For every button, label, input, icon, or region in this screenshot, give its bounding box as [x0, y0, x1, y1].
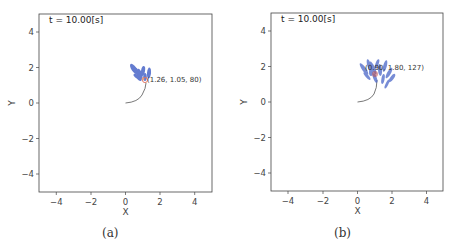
y-tick-label: −4	[253, 168, 266, 178]
x-tick-label: 4	[192, 197, 197, 207]
pose-annotation: (1.26, 1.05, 80)	[147, 76, 202, 84]
pose-annotation: (0.90, 1.80, 127)	[365, 64, 424, 72]
y-axis-label: Y	[7, 100, 17, 107]
y-tick-label: −2	[253, 133, 266, 143]
x-tick-label: −2	[317, 196, 330, 206]
caption-a: (a)	[102, 226, 119, 240]
y-tick-label: 0	[29, 98, 34, 108]
panel-b: −4 −2 0 2 4 4 2 0 −2 −4 X Y t = 10.00[s]	[227, 0, 454, 247]
x-axis-label: X	[122, 207, 128, 217]
y-tick-label: −2	[21, 134, 34, 144]
x-tick-label: 4	[424, 196, 429, 206]
plot-frame	[271, 13, 443, 191]
x-ticks: −4 −2 0 2 4	[282, 191, 429, 206]
y-tick-label: −4	[21, 169, 34, 179]
x-ticks: −4 −2 0 2 4	[50, 192, 197, 207]
panel-a: −4 −2 0 2 4 4 2 0 −2 −4 X Y t = 10.00[s]	[0, 0, 227, 247]
x-tick-label: −4	[50, 197, 63, 207]
caption-b: (b)	[334, 226, 351, 240]
y-tick-label: 4	[261, 26, 266, 36]
y-ticks: 4 2 0 −2 −4	[21, 27, 39, 179]
plot-a: −4 −2 0 2 4 4 2 0 −2 −4 X Y t = 10.00[s]	[0, 0, 227, 247]
x-tick-label: 2	[157, 197, 162, 207]
x-tick-label: −4	[282, 196, 295, 206]
y-tick-label: 2	[29, 63, 34, 73]
x-axis-label: X	[354, 206, 360, 216]
x-tick-label: 2	[389, 196, 394, 206]
x-tick-label: 0	[355, 196, 360, 206]
y-tick-label: 2	[261, 62, 266, 72]
time-annotation: t = 10.00[s]	[281, 14, 335, 24]
y-tick-label: 4	[29, 27, 34, 37]
y-axis-label: Y	[239, 99, 249, 106]
y-ticks: 4 2 0 −2 −4	[253, 26, 271, 178]
x-tick-label: 0	[123, 197, 128, 207]
x-tick-label: −2	[85, 197, 98, 207]
plot-b: −4 −2 0 2 4 4 2 0 −2 −4 X Y t = 10.00[s]	[227, 0, 454, 247]
time-annotation: t = 10.00[s]	[49, 15, 103, 25]
y-tick-label: 0	[261, 97, 266, 107]
